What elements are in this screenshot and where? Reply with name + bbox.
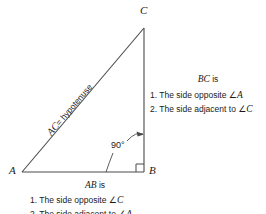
- note-block-ab: AB is 1. The side opposite ∠C 2. The sid…: [25, 180, 165, 214]
- angle-icon: ∠: [229, 90, 237, 100]
- vertex-label-c: C: [140, 5, 147, 16]
- note-ab-item-1: 1. The side opposite ∠C: [30, 194, 165, 208]
- angle-leader-lower: [106, 153, 113, 172]
- note-ab-item-2: 2. The side adjacent to ∠A: [30, 208, 165, 214]
- note-bc-item-2-vertex: C: [246, 104, 252, 114]
- note-bc-item-1: 1. The side opposite ∠A: [150, 89, 266, 103]
- vertex-label-a: A: [9, 165, 16, 176]
- note-bc-item-1-vertex: A: [237, 90, 243, 100]
- note-bc-heading: BC is: [150, 74, 266, 86]
- note-ab-item-2-vertex: A: [126, 209, 132, 214]
- note-ab-item-2-text: The side adjacent to: [39, 209, 116, 214]
- note-ab-heading: AB is: [25, 180, 165, 192]
- right-angle-marker: [136, 164, 144, 172]
- note-ab-item-1-vertex: C: [117, 195, 123, 205]
- note-ab-heading-side: AB: [85, 180, 97, 190]
- right-angle-label: 90°: [111, 141, 125, 150]
- note-block-bc: BC is 1. The side opposite ∠A 2. The sid…: [150, 74, 266, 116]
- note-bc-item-2-text: The side adjacent to: [159, 104, 236, 114]
- note-bc-heading-text: is: [212, 74, 218, 84]
- note-bc-item-2-number: 2.: [150, 104, 157, 114]
- note-ab-item-2-number: 2.: [30, 209, 37, 214]
- note-ab-item-1-text: The side opposite: [39, 195, 106, 205]
- note-bc-item-1-text: The side opposite: [159, 90, 226, 100]
- vertex-label-b: B: [149, 165, 156, 176]
- note-bc-item-2: 2. The side adjacent to ∠C: [150, 103, 266, 117]
- geometry-diagram-page: C A B 90° AC= hypotenuse BC is 1. The si…: [0, 0, 266, 214]
- note-ab-item-1-number: 1.: [30, 195, 37, 205]
- note-bc-heading-side: BC: [198, 74, 210, 84]
- note-ab-heading-text: is: [99, 180, 105, 190]
- angle-icon: ∠: [109, 195, 117, 205]
- note-bc-item-1-number: 1.: [150, 90, 157, 100]
